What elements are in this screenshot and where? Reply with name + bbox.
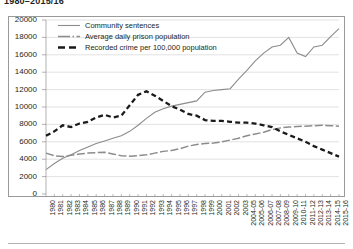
- x-tick-label: 1983: [74, 200, 81, 216]
- y-tick-label: 14000: [15, 68, 37, 76]
- x-tick-label: 1994: [166, 200, 173, 216]
- x-tick-label: 1980: [49, 200, 56, 216]
- chart-legend: Community sentences Average daily prison…: [58, 20, 273, 53]
- footer-divider: [8, 243, 345, 244]
- line-short-dash-icon: [58, 43, 80, 52]
- legend-item-label: Average daily prison population: [85, 32, 190, 41]
- x-tick-label: 2000: [216, 200, 223, 216]
- y-tick-label: 16000: [15, 51, 37, 59]
- legend-item: Community sentences: [58, 20, 273, 31]
- x-tick-label: 2004-05: [250, 200, 257, 226]
- y-axis-tick-labels: 0200040006000800010000120001400016000180…: [0, 16, 46, 197]
- x-tick-label: 1985: [91, 200, 98, 216]
- x-tick-label: 1981: [57, 200, 64, 216]
- y-tick-label: 6000: [19, 138, 37, 146]
- x-tick-label: 2010-11: [300, 200, 307, 225]
- x-tick-label: 2002: [233, 200, 240, 216]
- legend-item: Average daily prison population: [58, 31, 273, 42]
- x-axis-tick-labels: 1980198119821983198419851986198719881989…: [8, 197, 345, 243]
- y-tick-label: 2000: [19, 173, 37, 181]
- x-tick-label: 2005-06: [258, 200, 265, 226]
- x-tick-label: 2008-09: [283, 200, 290, 226]
- x-tick-label: 1986: [99, 200, 106, 216]
- series-line: [46, 125, 339, 156]
- x-tick-label: 2012-13: [317, 200, 324, 226]
- chart-title: 1980–2015/16: [4, 0, 64, 7]
- y-tick-label: 8000: [19, 120, 37, 128]
- x-tick-label: 1991: [141, 200, 148, 216]
- y-tick-label: 12000: [15, 86, 37, 94]
- figure-container: 1980–2015/16 020004000600080001000012000…: [0, 0, 353, 249]
- x-tick-label: 1988: [116, 200, 123, 216]
- x-tick-label: 2011-12: [309, 200, 316, 225]
- line-solid-icon: [58, 21, 80, 30]
- x-tick-label: 1982: [66, 200, 73, 216]
- x-tick-label: 1996: [183, 200, 190, 216]
- legend-item: Recorded crime per 100,000 population: [58, 42, 273, 53]
- x-tick-label: 1999: [208, 200, 215, 216]
- series-line: [46, 91, 339, 156]
- x-tick-label: 2009-10: [292, 200, 299, 226]
- x-tick-label: 1993: [158, 200, 165, 216]
- x-tick-label: 2001: [225, 200, 232, 216]
- y-tick-label: 10000: [15, 103, 37, 111]
- x-tick-label: 1984: [82, 200, 89, 216]
- line-long-dash-icon: [58, 32, 80, 41]
- y-tick-label: 18000: [15, 33, 37, 41]
- x-tick-label: 1995: [175, 200, 182, 216]
- x-tick-label: 1987: [108, 200, 115, 216]
- legend-item-label: Recorded crime per 100,000 population: [85, 43, 217, 52]
- legend-item-label: Community sentences: [85, 21, 159, 30]
- x-tick-label: 2015-16: [342, 200, 349, 226]
- x-tick-label: 2014-15: [334, 200, 341, 226]
- y-tick-label: 20000: [15, 16, 37, 24]
- x-tick-label: 2006-07: [267, 200, 274, 226]
- x-tick-label: 1997: [191, 200, 198, 216]
- x-tick-label: 1989: [124, 200, 131, 216]
- x-tick-label: 2003: [242, 200, 249, 216]
- y-tick-label: 4000: [19, 155, 37, 163]
- x-tick-label: 1992: [149, 200, 156, 216]
- x-tick-label: 2007-08: [275, 200, 282, 226]
- x-tick-label: 1990: [133, 200, 140, 216]
- x-tick-label: 1998: [200, 200, 207, 216]
- x-tick-label: 2013-14: [325, 200, 332, 226]
